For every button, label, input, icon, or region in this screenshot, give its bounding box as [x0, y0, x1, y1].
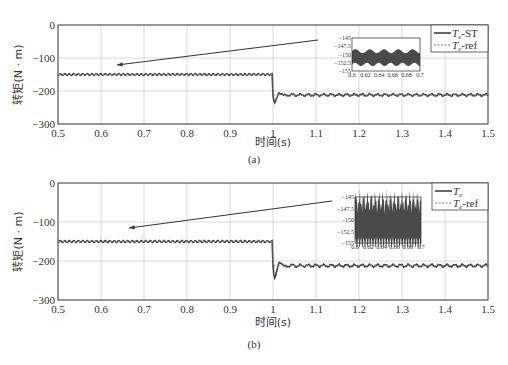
svg-text:−152.5: −152.5 [334, 60, 351, 66]
svg-text:−145: −145 [342, 194, 354, 200]
svg-text:0.68: 0.68 [401, 72, 412, 78]
svg-text:−145: −145 [339, 35, 351, 41]
svg-text:−147.5: −147.5 [334, 43, 351, 49]
svg-text:−200: −200 [32, 255, 55, 267]
svg-text:−150: −150 [339, 52, 351, 58]
svg-text:1.5: 1.5 [481, 127, 495, 139]
svg-text:−200: −200 [32, 85, 55, 97]
svg-text:0.66: 0.66 [388, 72, 399, 78]
y-axis-label: 转矩(N · m) [11, 44, 25, 104]
svg-text:0.7: 0.7 [137, 127, 151, 139]
svg-text:0.62: 0.62 [360, 72, 371, 78]
x-axis-label: 时间(s) [255, 316, 291, 329]
svg-text:0.68: 0.68 [403, 244, 414, 250]
svg-text:0.64: 0.64 [376, 244, 387, 250]
svg-text:0.6: 0.6 [351, 244, 359, 250]
caption-a: (a) [234, 153, 274, 165]
svg-text:0: 0 [50, 19, 56, 31]
svg-text:0.8: 0.8 [180, 127, 194, 139]
svg-text:1: 1 [270, 303, 276, 315]
caption-b: (b) [234, 338, 274, 350]
svg-text:1.2: 1.2 [352, 303, 366, 315]
svg-text:1.4: 1.4 [438, 303, 452, 315]
svg-text:0.6: 0.6 [94, 303, 108, 315]
svg-text:0.66: 0.66 [389, 244, 400, 250]
legend: TeTe-ref [432, 183, 488, 211]
svg-text:0.62: 0.62 [363, 244, 374, 250]
chart-panel-a: 0.50.60.70.80.911.11.21.31.41.50−100−200… [11, 19, 495, 149]
pointer-arrow [117, 40, 318, 65]
svg-text:0.6: 0.6 [348, 72, 356, 78]
svg-text:−300: −300 [32, 294, 55, 306]
svg-text:0.7: 0.7 [137, 303, 151, 315]
svg-text:1.1: 1.1 [309, 303, 323, 315]
svg-text:1.2: 1.2 [352, 127, 366, 139]
svg-text:−100: −100 [32, 52, 55, 64]
svg-text:−152.5: −152.5 [337, 229, 354, 235]
x-axis-label: 时间(s) [255, 136, 291, 149]
svg-text:−300: −300 [32, 118, 55, 130]
svg-text:0.7: 0.7 [416, 72, 424, 78]
svg-text:1.4: 1.4 [438, 127, 452, 139]
svg-text:0.9: 0.9 [223, 127, 237, 139]
inset-zoom: −145−147.5−150−152.5−1550.60.620.640.660… [337, 190, 425, 250]
svg-text:−100: −100 [32, 216, 55, 228]
y-axis-label: 转矩(N · m) [11, 211, 25, 271]
svg-text:0: 0 [50, 177, 56, 189]
chart-panel-b: 0.50.60.70.80.911.11.21.31.41.50−100−200… [11, 177, 495, 329]
svg-text:0.64: 0.64 [374, 72, 385, 78]
figure-canvas: 0.50.60.70.80.911.11.21.31.41.50−100−200… [0, 0, 508, 365]
inset-zoom: −145−147.5−150−152.5−1550.60.620.640.660… [334, 35, 424, 78]
svg-text:1.1: 1.1 [309, 127, 323, 139]
svg-text:0.9: 0.9 [223, 303, 237, 315]
pointer-arrow [129, 201, 332, 228]
svg-text:1.3: 1.3 [395, 127, 409, 139]
svg-text:Te-ref: Te-ref [453, 197, 478, 211]
svg-text:1.3: 1.3 [395, 303, 409, 315]
svg-text:0.8: 0.8 [180, 303, 194, 315]
legend: Te-STTe-ref [431, 25, 488, 53]
svg-text:0.7: 0.7 [417, 244, 425, 250]
svg-text:0.6: 0.6 [94, 127, 108, 139]
svg-text:−147.5: −147.5 [337, 206, 354, 212]
svg-text:Te-ref: Te-ref [452, 39, 477, 53]
svg-text:1.5: 1.5 [481, 303, 495, 315]
svg-text:−150: −150 [342, 217, 354, 223]
